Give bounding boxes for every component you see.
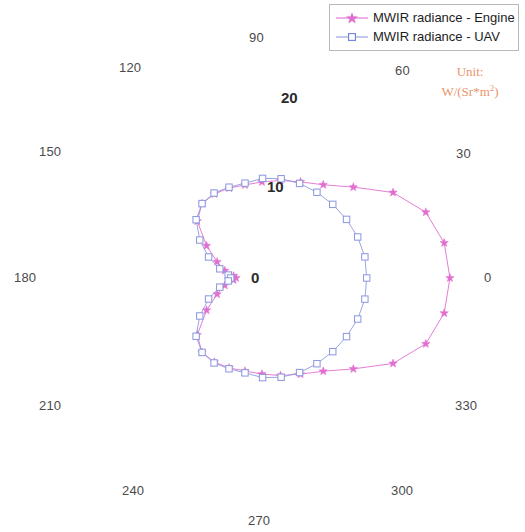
series-line [196,178,367,377]
data-point-square [226,366,232,372]
data-point-star [349,365,357,373]
data-point-square [259,175,265,181]
data-point-square [314,189,320,195]
data-point-square [193,333,199,339]
data-point-square [193,217,199,223]
angular-tick-label-210: 210 [39,398,61,413]
unit-expression-suffix: ) [494,84,498,99]
data-point-square [226,184,232,190]
angular-tick-label-60: 60 [395,63,410,78]
unit-line-1: Unit: [420,64,520,80]
data-point-square [197,237,203,243]
data-point-square [355,316,361,322]
legend-label-engine: MWIR radiance - Engine [369,10,515,25]
data-point-square [362,254,368,260]
data-point-star [422,208,430,216]
data-point-square [296,180,302,186]
chart-legend: MWIR radiance - Engine MWIR radiance - U… [329,4,519,51]
data-point-square [330,348,336,354]
angular-tick-label-240: 240 [122,483,144,498]
radial-tick-label-10: 10 [267,178,284,195]
data-point-square [211,360,217,366]
data-point-star [440,309,448,317]
data-point-star [389,359,397,367]
data-point-square [242,180,248,186]
data-point-square [217,266,223,272]
data-point-star [422,339,430,347]
legend-item-engine[interactable]: MWIR radiance - Engine [335,8,512,27]
series-uav [193,175,370,381]
radial-tick-label-20: 20 [281,89,298,106]
data-point-square [296,369,302,375]
data-point-square [343,333,349,339]
data-point-star [202,306,210,314]
data-point-square [199,349,205,355]
angular-tick-label-270: 270 [248,513,270,528]
data-point-square [364,275,370,281]
square-marker-icon [335,30,369,44]
angular-tick-label-90: 90 [249,30,264,45]
star-marker-icon [335,11,369,25]
data-point-square [199,200,205,206]
angular-tick-label-300: 300 [391,483,413,498]
data-point-square [343,216,349,222]
data-point-square [330,201,336,207]
angular-tick-label-180: 180 [14,270,36,285]
data-point-square [259,374,265,380]
data-point-star [319,367,327,375]
angular-tick-label-0: 0 [484,270,491,285]
data-point-star [349,183,357,191]
data-point-square [362,296,368,302]
data-point-square [197,313,203,319]
unit-line-2: W/(Sr*m2) [420,80,520,100]
data-point-square [211,190,217,196]
data-point-square [225,278,231,284]
data-point-square [205,296,211,302]
data-point-square [278,374,284,380]
unit-expression-prefix: W/(Sr*m [441,84,489,99]
legend-item-uav[interactable]: MWIR radiance - UAV [335,27,512,46]
angular-tick-label-30: 30 [456,146,471,161]
radial-tick-label-0: 0 [251,269,259,286]
data-point-square [355,234,361,240]
angular-tick-label-150: 150 [39,144,61,159]
angular-tick-label-120: 120 [119,60,141,75]
data-point-square [217,284,223,290]
angular-tick-label-330: 330 [455,398,477,413]
data-point-square [205,254,211,260]
data-point-star [319,180,327,188]
unit-annotation: Unit: W/(Sr*m2) [420,64,520,100]
data-point-square [314,361,320,367]
legend-label-uav: MWIR radiance - UAV [369,29,500,44]
data-point-square [242,370,248,376]
data-point-star [389,188,397,196]
data-point-star [213,257,221,265]
